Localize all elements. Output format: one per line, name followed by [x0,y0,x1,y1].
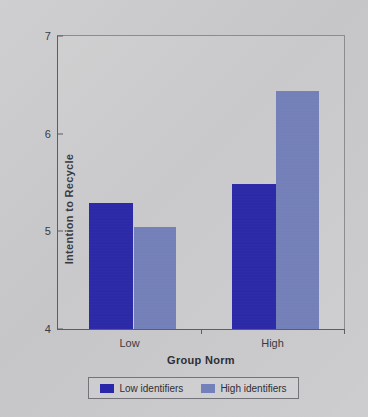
chart-legend: Low identifiers High identifiers [88,377,299,399]
chart-figure: Intention to Recycle 7 6 5 4 Low High Gr… [0,0,368,417]
x-tick-mark-mid [201,329,202,334]
y-tick-label-5: 5 [45,225,51,237]
y-tick-mark-4 [58,329,63,330]
y-tick-mark-7 [58,36,63,37]
y-tick-mark-5 [58,231,63,232]
bar-high-norm-low-identifiers [232,184,276,329]
y-tick-label-7: 7 [45,30,51,42]
x-tick-label-high: High [261,337,284,349]
bar-low-norm-low-identifiers [89,203,134,329]
x-tick-label-low: Low [119,337,139,349]
bar-high-norm-high-identifiers [276,91,320,329]
legend-swatch-high-identifiers [201,384,215,393]
y-tick-label-4: 4 [45,323,51,335]
y-tick-label-6: 6 [45,128,51,140]
bar-low-norm-high-identifiers [134,227,177,329]
x-axis-title: Group Norm [57,354,345,366]
legend-swatch-low-identifiers [100,384,114,393]
legend-label-high-identifiers: High identifiers [220,383,286,394]
legend-item-high-identifiers: High identifiers [201,383,286,394]
plot-area: 7 6 5 4 Low High [57,35,345,330]
x-tick-mark-end [344,329,345,334]
y-tick-mark-6 [58,133,63,134]
legend-item-low-identifiers: Low identifiers [100,383,183,394]
legend-label-low-identifiers: Low identifiers [119,383,183,394]
